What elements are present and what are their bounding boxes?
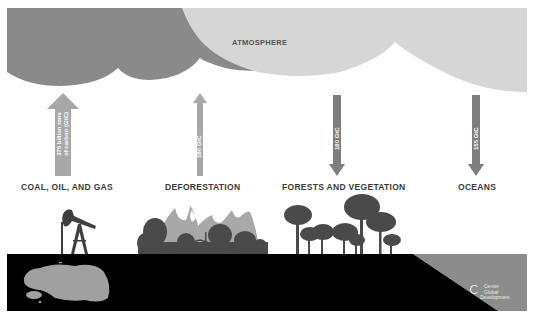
- label-forests-vegetation: FORESTS AND VEGETATION: [282, 182, 406, 192]
- deforestation-flow-value: 180 GtC: [196, 135, 203, 158]
- trees-icon: [284, 194, 401, 254]
- coal-flow-value-line1: 375 billion tons: [56, 94, 63, 174]
- label-coal-oil-gas: COAL, OIL, AND GAS: [21, 182, 113, 192]
- atmosphere-cloud-light: [182, 8, 527, 92]
- carbon-flow-diagram: ATMOSPHERE 375 billion tons of carbon (G…: [0, 0, 535, 316]
- burning-forest-icon: [137, 205, 268, 254]
- diagram-graphics: [0, 0, 535, 316]
- coal-flow-value-line2: of carbon (GtC): [63, 94, 70, 174]
- atmosphere-label: ATMOSPHERE: [232, 38, 287, 47]
- oil-pump-icon: [61, 210, 96, 255]
- oceans-flow-value: 155 GtC: [473, 127, 480, 150]
- label-oceans: OCEANS: [458, 182, 496, 192]
- logo-line3: Development: [480, 295, 509, 301]
- label-deforestation: DEFORESTATION: [165, 182, 240, 192]
- forests-flow-value: 160 GtC: [334, 127, 341, 150]
- coal-flow-value: 375 billion tons of carbon (GtC): [56, 94, 70, 174]
- logo-ring-icon: [470, 285, 479, 294]
- cgd-logo: Center Global Development: [480, 284, 509, 301]
